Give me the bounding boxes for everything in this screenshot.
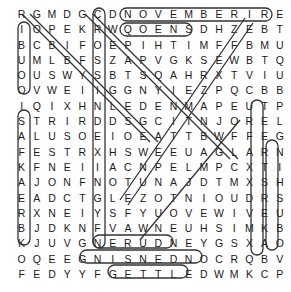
found-word-highlights xyxy=(0,0,291,292)
word-search-board[interactable]: RGMDGCDNOVEMBERIREIOPEKRWQOENSDHZEBTBCBI… xyxy=(0,0,291,292)
